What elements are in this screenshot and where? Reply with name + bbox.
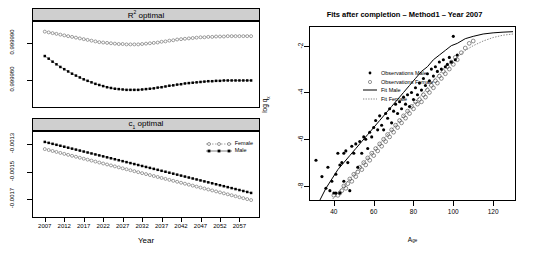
y-tick-mark <box>27 144 32 145</box>
x-tick-label: 2027 <box>116 223 129 229</box>
fits-scatter-figure: Fits after completion – Method1 – Year 2… <box>270 0 539 259</box>
legend-label: Observations Female <box>381 78 433 87</box>
x-tick-mark <box>220 218 221 222</box>
legend-label: Fit Male <box>381 86 401 95</box>
x-axis-title-left: Year <box>32 236 260 245</box>
y-tick-label: -8 <box>297 175 304 195</box>
right-chart-title: Fits after completion – Method1 – Year 2… <box>270 10 539 19</box>
series-canvas-r2 <box>33 22 259 107</box>
x-axis-left-figure: 2007201220172022202720322037204220472052… <box>32 218 260 234</box>
x-tick-mark <box>123 218 124 222</box>
legend-item: Observations Male <box>362 69 433 78</box>
x-tick-mark <box>162 218 163 222</box>
x-tick-label: 60 <box>370 208 377 215</box>
y-tick-mark <box>27 199 32 200</box>
x-tick-mark <box>201 218 202 222</box>
y-tick-mark <box>27 43 32 44</box>
legend-item: Fit Female <box>362 95 433 104</box>
filled-dot-icon <box>362 70 378 76</box>
open-circle-icon <box>206 141 232 147</box>
x-axis-title-right: Age <box>309 236 516 243</box>
panel-r2-optimal: R2 optimal <box>32 8 260 108</box>
strip-title-r2: R2 optimal <box>32 8 260 21</box>
x-tick-mark <box>103 218 104 222</box>
legend-label: Observations Male <box>381 69 427 78</box>
x-tick-label: 2022 <box>96 223 109 229</box>
legend-item: Female <box>206 140 253 147</box>
x-tick-mark <box>413 201 414 206</box>
scatter-canvas <box>310 27 515 200</box>
dotted-line-icon <box>362 96 378 102</box>
x-tick-label: 2007 <box>38 223 51 229</box>
panel-c1-optimal: c1 optimal FemaleMale <box>32 118 260 218</box>
x-tick-label: 100 <box>448 208 459 215</box>
legend-item: Observations Female <box>362 78 433 87</box>
plot-area-r2 <box>32 21 260 108</box>
x-tick-mark <box>239 218 240 222</box>
y-axis-title-right: log qx <box>261 96 270 112</box>
legend-left-figure: FemaleMale <box>206 140 253 155</box>
figure-canvas: R2 optimal 0.9999900.999980 c1 optimal F… <box>0 0 539 259</box>
plot-area-scatter: Observations MaleObservations FemaleFit … <box>309 26 516 201</box>
y-tick-label: -0.0017 <box>9 170 15 226</box>
strip-label-r2: R2 optimal <box>128 10 165 20</box>
y-tick-label: -4 <box>297 82 304 102</box>
x-tick-label: 2042 <box>174 223 187 229</box>
y-tick-mark <box>27 172 32 173</box>
x-tick-mark <box>45 218 46 222</box>
y-tick-mark <box>27 80 32 81</box>
x-tick-label: 120 <box>488 208 499 215</box>
x-tick-label: 40 <box>330 208 337 215</box>
x-tick-label: 2052 <box>213 223 226 229</box>
x-tick-mark <box>142 218 143 222</box>
open-circle-icon <box>362 79 378 85</box>
x-tick-label: 2032 <box>135 223 148 229</box>
x-tick-label: 2057 <box>233 223 246 229</box>
y-tick-label: 0.999980 <box>9 51 15 107</box>
x-tick-mark <box>493 201 494 206</box>
x-tick-mark <box>181 218 182 222</box>
x-tick-label: 2012 <box>58 223 71 229</box>
strip-title-c1: c1 optimal <box>32 118 260 131</box>
strip-label-c1: c1 optimal <box>129 120 164 130</box>
x-tick-label: 2037 <box>155 223 168 229</box>
x-tick-mark <box>334 201 335 206</box>
solid-line-icon <box>362 87 378 93</box>
legend-item: Fit Male <box>362 86 433 95</box>
legend-label: Male <box>235 147 247 154</box>
y-tick-mark <box>304 92 309 93</box>
x-tick-mark <box>64 218 65 222</box>
filled-square-icon <box>206 148 232 154</box>
x-tick-mark <box>374 201 375 206</box>
y-tick-label: -2 <box>297 35 304 55</box>
optimal-parameters-figure: R2 optimal 0.9999900.999980 c1 optimal F… <box>0 0 270 259</box>
x-tick-label: 80 <box>410 208 417 215</box>
x-tick-label: 2017 <box>77 223 90 229</box>
y-tick-mark <box>304 186 309 187</box>
x-tick-mark <box>453 201 454 206</box>
legend-label: Female <box>235 140 253 147</box>
legend-label: Fit Female <box>381 95 407 104</box>
y-tick-mark <box>304 46 309 47</box>
x-tick-mark <box>84 218 85 222</box>
x-tick-label: 2047 <box>194 223 207 229</box>
legend-item: Male <box>206 147 253 154</box>
y-tick-mark <box>304 139 309 140</box>
y-tick-label: -6 <box>297 129 304 149</box>
legend-right-figure: Observations MaleObservations FemaleFit … <box>362 69 433 103</box>
plot-area-c1: FemaleMale <box>32 131 260 218</box>
